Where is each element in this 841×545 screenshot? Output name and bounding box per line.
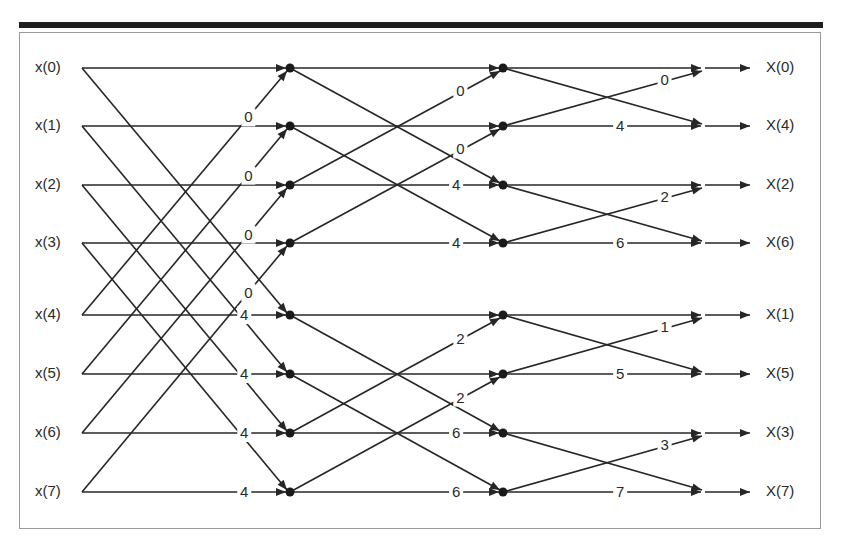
- twiddle-weight: 6: [452, 483, 460, 500]
- output-label-5: X(5): [766, 364, 794, 381]
- butterfly-node: [499, 64, 508, 73]
- edge-cross-up: [503, 436, 702, 492]
- butterfly-node: [499, 311, 508, 320]
- butterfly-node: [286, 64, 295, 73]
- edge-cross-up: [82, 129, 287, 374]
- edge-cross-down: [503, 185, 702, 241]
- twiddle-weight: 0: [244, 167, 252, 184]
- edge-cross-up: [82, 188, 287, 433]
- output-label-1: X(4): [766, 116, 794, 133]
- edge-cross-up: [503, 318, 702, 374]
- output-label-2: X(2): [766, 175, 794, 192]
- edge-cross-down: [82, 243, 287, 490]
- input-label-3: x(3): [35, 233, 61, 250]
- output-label-3: X(6): [766, 233, 794, 250]
- twiddle-weight: 0: [244, 226, 252, 243]
- twiddle-weight: 2: [456, 330, 464, 347]
- output-label-0: X(0): [766, 58, 794, 75]
- twiddle-weight: 6: [616, 234, 624, 251]
- edges-layer: [82, 68, 750, 492]
- edge-cross-up: [290, 129, 500, 243]
- edge-cross-up: [503, 71, 702, 126]
- input-label-2: x(2): [35, 175, 61, 192]
- butterfly-node: [286, 429, 295, 438]
- edge-cross-up: [290, 318, 500, 433]
- output-label-6: X(3): [766, 423, 794, 440]
- twiddle-weight: 4: [616, 117, 624, 134]
- edge-cross-down: [82, 68, 287, 313]
- edge-cross-down: [503, 68, 702, 124]
- butterfly-node: [286, 311, 295, 320]
- labels-layer: 040404040404262604261537x(0)x(1)x(2)x(3)…: [35, 58, 794, 501]
- edge-cross-up: [503, 188, 702, 243]
- butterfly-node: [499, 122, 508, 131]
- output-label-7: X(7): [766, 482, 794, 499]
- butterfly-node: [499, 181, 508, 190]
- input-label-4: x(4): [35, 305, 61, 322]
- twiddle-weight: 4: [240, 365, 248, 382]
- edge-cross-up: [82, 71, 287, 315]
- twiddle-weight: 1: [660, 318, 668, 335]
- butterfly-node: [286, 370, 295, 379]
- twiddle-weight: 0: [244, 284, 252, 301]
- twiddle-weight: 3: [660, 436, 668, 453]
- twiddle-weight: 4: [452, 176, 460, 193]
- butterfly-node: [286, 181, 295, 190]
- twiddle-weight: 0: [244, 108, 252, 125]
- twiddle-weight: 4: [452, 234, 460, 251]
- twiddle-weight: 0: [456, 140, 464, 157]
- fft-flow-graph: 040404040404262604261537x(0)x(1)x(2)x(3)…: [0, 0, 841, 545]
- twiddle-weight: 0: [456, 82, 464, 99]
- edge-cross-up: [82, 246, 287, 492]
- input-label-7: x(7): [35, 482, 61, 499]
- edge-cross-down: [503, 433, 702, 490]
- edge-cross-up: [290, 377, 500, 492]
- twiddle-weight: 4: [240, 424, 248, 441]
- butterfly-node: [286, 488, 295, 497]
- edge-cross-down: [290, 126, 500, 241]
- edge-cross-down: [290, 315, 500, 431]
- butterfly-node: [499, 429, 508, 438]
- twiddle-weight: 2: [660, 188, 668, 205]
- twiddle-weight: 0: [660, 71, 668, 88]
- twiddle-weight: 7: [616, 483, 624, 500]
- twiddle-weight: 5: [616, 365, 624, 382]
- edge-cross-down: [290, 374, 500, 490]
- input-label-6: x(6): [35, 423, 61, 440]
- butterfly-node: [499, 488, 508, 497]
- twiddle-weight: 4: [240, 306, 248, 323]
- butterfly-node: [499, 370, 508, 379]
- edge-cross-up: [290, 71, 500, 185]
- edge-cross-down: [503, 315, 702, 372]
- input-label-5: x(5): [35, 364, 61, 381]
- nodes-layer: [286, 64, 508, 497]
- twiddle-weight: 4: [240, 483, 248, 500]
- edge-cross-down: [82, 185, 287, 431]
- butterfly-node: [286, 239, 295, 248]
- butterfly-node: [286, 122, 295, 131]
- output-label-4: X(1): [766, 305, 794, 322]
- butterfly-node: [499, 239, 508, 248]
- twiddle-weight: 6: [452, 424, 460, 441]
- twiddle-weight: 2: [456, 389, 464, 406]
- input-label-1: x(1): [35, 116, 61, 133]
- edge-cross-down: [82, 126, 287, 372]
- input-label-0: x(0): [35, 58, 61, 75]
